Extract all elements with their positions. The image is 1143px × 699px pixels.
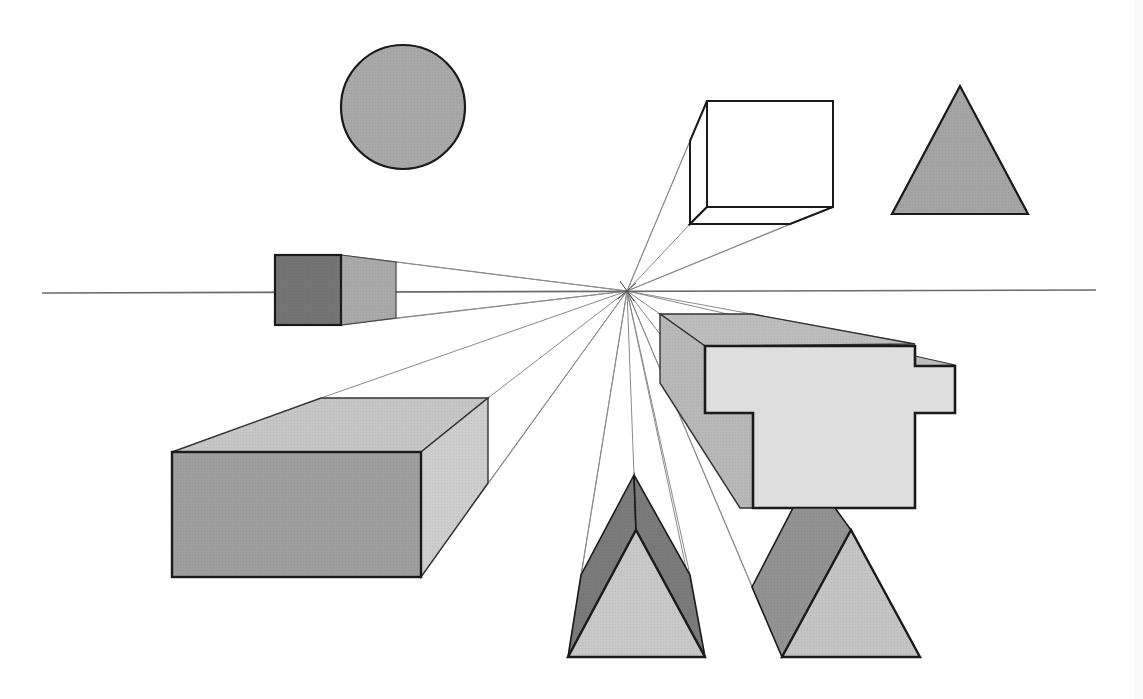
convergence-ray [396, 262, 627, 291]
wireframe-box [690, 101, 833, 224]
perspective-diagram [0, 0, 1143, 699]
right-prism [752, 508, 920, 657]
horizon-line [42, 290, 1096, 293]
convergence-ray [627, 224, 690, 291]
flat-triangle [892, 86, 1028, 214]
small-cube [275, 255, 396, 325]
circle-shape [341, 45, 465, 169]
left-prism [568, 475, 705, 657]
stepped-block [660, 314, 955, 508]
convergence-ray [488, 291, 627, 398]
large-box [172, 398, 488, 577]
